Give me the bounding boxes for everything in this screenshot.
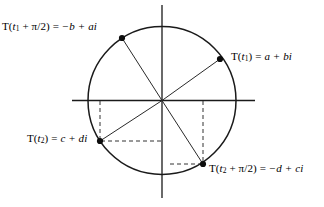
label-value: −b + ai (62, 20, 97, 32)
point-label-t1: T(t1) = a + bi (231, 51, 292, 63)
point-label-t1-plus-pi-over-2: T(t1 + π/2) = −b + ai (2, 21, 97, 33)
point-marker-t1-plus-pi-over-2 (119, 35, 125, 41)
point-label-t2-plus-pi-over-2: T(t2 + π/2) = −d + ci (209, 163, 303, 175)
label-equals: = (50, 20, 62, 32)
label-fn-text: T( (27, 132, 38, 144)
label-arg-rest: + π/2) (227, 162, 257, 174)
label-equals: = (257, 162, 269, 174)
radius-line-t1-plus-pi-over-2 (122, 38, 162, 101)
point-marker-t2-plus-pi-over-2 (200, 161, 206, 167)
label-equals: = (48, 132, 60, 144)
label-value: a + bi (264, 50, 292, 62)
label-value: c + di (60, 132, 87, 144)
point-marker-t2 (97, 138, 103, 144)
radius-line-t2 (100, 101, 162, 142)
complex-plane-figure: T(t1 + π/2) = −b + ai T(t1) = a + bi T(t… (0, 0, 324, 207)
label-fn-text: T( (231, 50, 242, 62)
label-fn-text: T( (2, 20, 13, 32)
label-fn-text: T( (209, 162, 220, 174)
radius-line-t1 (162, 59, 220, 101)
dashed-guides-group (100, 101, 203, 164)
label-value: −d + ci (269, 162, 303, 174)
radius-line-t2-plus-pi-over-2 (162, 101, 203, 165)
point-marker-t1 (217, 56, 223, 62)
label-equals: = (252, 50, 264, 62)
label-arg-rest: + π/2) (20, 20, 50, 32)
point-label-t2: T(t2) = c + di (27, 133, 87, 145)
